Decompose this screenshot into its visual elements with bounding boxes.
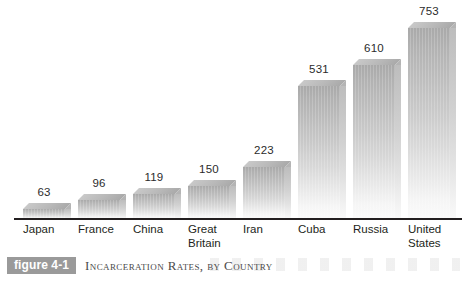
x-label-great-britain: Great Britain (188, 223, 243, 250)
bar-side-face (395, 65, 401, 219)
chart-plot-area: 63 96 (0, 0, 472, 219)
bar-slot-cuba: 531 (298, 0, 353, 219)
bar-france: 96 (78, 194, 126, 219)
x-label-line: States (408, 237, 463, 251)
bar-body-france (78, 194, 126, 219)
bar-front-face (78, 200, 120, 219)
figure-number-badge: figure 4-1 (7, 257, 76, 274)
bar-side-face (230, 186, 236, 219)
bar-slot-china: 119 (133, 0, 188, 219)
bar-side-face (340, 86, 346, 219)
bar-slot-great-britain: 150 (188, 0, 243, 219)
bar-united-states: 753 (408, 22, 456, 219)
bar-slot-japan: 63 (23, 0, 78, 219)
bar-side-face (450, 28, 456, 219)
bar-front-face (243, 167, 285, 219)
bar-side-face (285, 167, 291, 219)
bar-front-face (298, 86, 340, 219)
x-label-line: United (408, 223, 463, 237)
x-label-line: China (133, 223, 188, 237)
bar-value-china: 119 (133, 171, 175, 183)
bar-slot-united-states: 753 (408, 0, 463, 219)
bar-value-france: 96 (78, 177, 120, 189)
bar-value-great-britain: 150 (188, 163, 230, 175)
x-axis-line (14, 218, 462, 220)
bar-body-china (133, 188, 181, 219)
figure-incarceration-rates: 63 96 (0, 0, 472, 281)
x-label-line: Cuba (298, 223, 353, 237)
figure-caption: figure 4-1 Incarceration Rates, by Count… (7, 257, 273, 274)
x-label-iran: Iran (243, 223, 298, 250)
bar-body-cuba (298, 80, 346, 219)
x-label-line: Japan (23, 223, 78, 237)
bar-side-face (120, 200, 126, 219)
bar-russia: 610 (353, 59, 401, 219)
x-axis-labels: Japan France China Great Britain Iran Cu… (23, 223, 463, 250)
bar-front-face (188, 186, 230, 219)
bar-great-britain: 150 (188, 180, 236, 219)
bar-value-japan: 63 (23, 186, 65, 198)
bar-japan: 63 (23, 203, 71, 219)
x-label-united-states: United States (408, 223, 463, 250)
bar-slot-france: 96 (78, 0, 133, 219)
bar-series: 63 96 (23, 0, 463, 219)
bar-iran: 223 (243, 161, 291, 219)
bar-china: 119 (133, 188, 181, 219)
bar-front-face (353, 65, 395, 219)
bar-body-japan (23, 203, 71, 219)
bar-body-iran (243, 161, 291, 219)
bar-slot-iran: 223 (243, 0, 298, 219)
x-label-japan: Japan (23, 223, 78, 250)
x-label-china: China (133, 223, 188, 250)
figure-caption-text: Incarceration Rates, by Country (85, 258, 273, 274)
bar-value-iran: 223 (243, 144, 285, 156)
x-label-line: Russia (353, 223, 408, 237)
x-label-line: Britain (188, 237, 243, 251)
bar-value-russia: 610 (353, 42, 395, 54)
bar-value-cuba: 531 (298, 63, 340, 75)
bar-front-face (133, 194, 175, 219)
bar-body-great-britain (188, 180, 236, 219)
x-label-line: Great (188, 223, 243, 237)
bar-cuba: 531 (298, 80, 346, 219)
x-label-cuba: Cuba (298, 223, 353, 250)
x-label-russia: Russia (353, 223, 408, 250)
bar-slot-russia: 610 (353, 0, 408, 219)
x-label-line: France (78, 223, 133, 237)
x-label-line: Iran (243, 223, 298, 237)
bar-value-united-states: 753 (408, 5, 450, 17)
bar-body-united-states (408, 22, 456, 219)
bar-body-russia (353, 59, 401, 219)
bar-side-face (175, 194, 181, 219)
x-label-france: France (78, 223, 133, 250)
bar-front-face (408, 28, 450, 219)
